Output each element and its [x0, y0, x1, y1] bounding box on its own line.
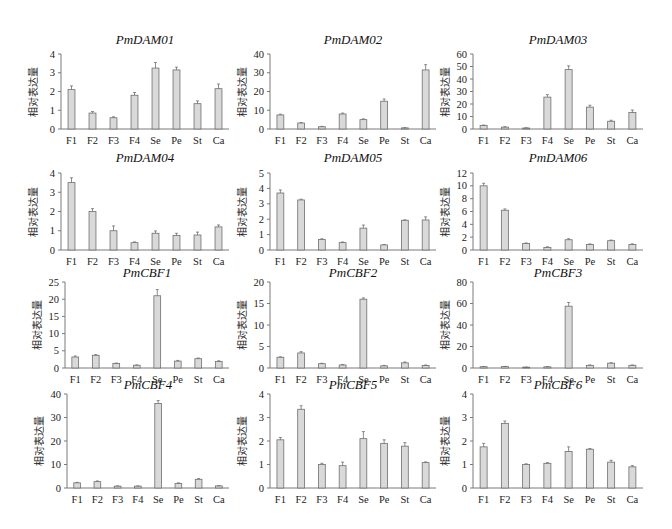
x-category-label: F1 [478, 135, 489, 146]
bar-f2 [89, 212, 96, 251]
y-tick-label: 1 [50, 105, 55, 116]
y-tick-label: 80 [457, 277, 468, 288]
y-tick-label: 4 [259, 389, 265, 400]
bar-pe [586, 365, 593, 368]
y-tick-label: 20 [49, 294, 60, 305]
x-category-label: F1 [478, 494, 489, 505]
x-category-label: F2 [87, 135, 98, 146]
y-tick-label: 3 [50, 67, 55, 78]
y-tick-label: 20 [254, 86, 265, 97]
bar-f3 [110, 231, 117, 250]
bar-ca [422, 365, 429, 368]
y-tick-label: 4 [50, 168, 56, 179]
x-category-label: Se [563, 135, 574, 146]
x-category-label: Pe [379, 494, 390, 505]
bar-f2 [501, 423, 508, 488]
x-category-label: F4 [132, 494, 144, 505]
bar-f4 [131, 243, 138, 250]
x-category-label: F1 [275, 256, 286, 267]
y-tick-label: 20 [457, 341, 468, 352]
bar-ca [422, 70, 429, 129]
y-tick-label: 2 [50, 86, 55, 97]
y-tick-label: 0 [259, 245, 264, 256]
x-category-label: F1 [275, 494, 286, 505]
chart-panel-pmdam06: PmDAM06相对表达量024681012F1F2F3F4SePeStCa [439, 150, 643, 267]
x-category-label: F3 [112, 494, 123, 505]
y-tick-label: 10 [457, 111, 468, 122]
y-tick-label: 4 [50, 49, 56, 60]
y-tick-label: 4 [462, 389, 468, 400]
x-category-label: F2 [499, 374, 510, 385]
chart-panel-pmcbf1: PmCBF1相对表达量0510152025F1F2F3F4SePeStCa [31, 265, 229, 385]
x-category-label: Pe [379, 135, 390, 146]
x-category-label: St [194, 374, 203, 385]
bar-st [195, 479, 202, 488]
bar-f1 [68, 183, 75, 250]
x-category-label: F1 [275, 374, 286, 385]
chart-panel-pmcbf4: PmCBF4相对表达量010203040F1F2F3F4SePeStCa [33, 377, 229, 505]
y-tick-label: 0 [462, 245, 467, 256]
bar-f1 [277, 115, 284, 129]
bar-ca [629, 365, 636, 368]
x-category-label: F3 [108, 135, 119, 146]
bar-f4 [135, 486, 142, 488]
bar-se [152, 68, 159, 129]
x-category-label: Pe [171, 256, 182, 267]
y-tick-label: 30 [51, 412, 62, 423]
x-category-label: F2 [92, 494, 103, 505]
bar-pe [381, 443, 388, 488]
x-category-label: St [607, 374, 616, 385]
y-tick-label: 0 [50, 245, 55, 256]
x-category-label: F2 [87, 256, 98, 267]
panel-title: PmCBF3 [533, 265, 583, 280]
bar-pe [174, 361, 181, 368]
bar-se [565, 452, 572, 488]
bar-f2 [298, 409, 305, 488]
x-category-label: Pe [173, 374, 184, 385]
x-category-label: Pe [379, 374, 390, 385]
y-tick-label: 0 [50, 124, 55, 135]
panel-title: PmDAM06 [528, 150, 588, 165]
bar-pe [586, 245, 593, 250]
y-tick-label: 15 [49, 311, 60, 322]
bar-f3 [318, 240, 325, 250]
y-tick-label: 5 [54, 345, 59, 356]
y-axis-label: 相对表达量 [236, 187, 248, 237]
bar-pe [381, 245, 388, 250]
x-category-label: F4 [542, 135, 554, 146]
panel-title: PmCBF4 [123, 377, 173, 392]
bar-ca [422, 220, 429, 250]
y-axis-label: 相对表达量 [236, 300, 248, 350]
y-tick-label: 3 [50, 187, 55, 198]
chart-panel-pmcbf5: PmCBF5相对表达量01234F1F2F3F4SePeStCa [236, 377, 436, 505]
x-category-label: F2 [499, 135, 510, 146]
bar-ca [629, 467, 636, 488]
y-axis-label: 相对表达量 [439, 187, 451, 237]
bar-pe [173, 70, 180, 129]
x-category-label: F2 [499, 494, 510, 505]
chart-panel-pmdam05: PmDAM05相对表达量012345F1F2F3F4SePeStCa [236, 150, 436, 267]
x-category-label: Ca [420, 135, 432, 146]
bar-f4 [339, 365, 346, 368]
y-tick-label: 8 [462, 193, 467, 204]
bar-st [195, 359, 202, 368]
bar-ca [215, 361, 222, 368]
bar-f1 [74, 483, 81, 488]
x-category-label: F3 [316, 494, 327, 505]
y-tick-label: 0 [54, 363, 59, 374]
bar-st [608, 121, 615, 129]
bar-f1 [480, 367, 487, 368]
bar-f2 [501, 127, 508, 129]
y-tick-label: 10 [49, 328, 60, 339]
bar-f2 [298, 200, 305, 250]
y-tick-label: 12 [457, 168, 468, 179]
y-tick-label: 4 [259, 183, 265, 194]
bar-f3 [318, 127, 325, 129]
bar-f4 [131, 95, 138, 129]
bar-ca [629, 245, 636, 250]
bar-f2 [501, 210, 508, 250]
bar-se [155, 403, 162, 488]
bar-pe [173, 236, 180, 250]
x-category-label: Se [150, 135, 161, 146]
bar-f4 [133, 365, 140, 368]
